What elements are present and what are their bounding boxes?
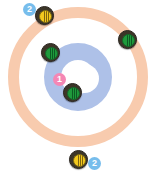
stone-handle-icon — [122, 34, 135, 47]
badge-bottom-rank: 2 — [88, 157, 101, 170]
stone-top-left-yellow[interactable] — [35, 6, 54, 25]
stone-center-green[interactable] — [63, 83, 82, 102]
curling-house-diagram: 2 1 2 — [0, 0, 157, 175]
stone-upper-left-green[interactable] — [41, 43, 60, 62]
stone-handle-icon — [45, 47, 58, 60]
stone-upper-right-green[interactable] — [118, 30, 137, 49]
badge-center-rank: 1 — [53, 73, 66, 86]
badge-top-left-rank: 2 — [23, 3, 36, 16]
stone-handle-icon — [73, 154, 86, 167]
stone-bottom-yellow[interactable] — [69, 150, 88, 169]
stone-handle-icon — [39, 10, 52, 23]
stone-handle-icon — [67, 87, 80, 100]
